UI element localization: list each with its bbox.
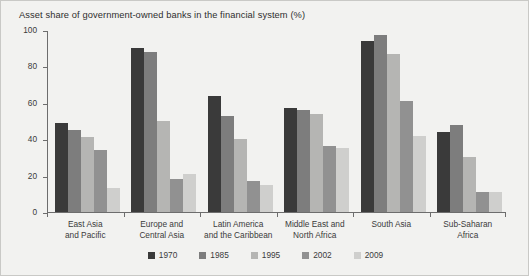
legend-label: 2009 xyxy=(365,250,383,260)
bar xyxy=(400,101,413,212)
chart-figure: Asset share of government-owned banks in… xyxy=(0,0,529,276)
x-axis-category-label: East Asia and Pacific xyxy=(47,219,124,241)
bar xyxy=(107,188,120,212)
x-axis-tick xyxy=(353,213,354,217)
bar xyxy=(374,35,387,212)
bar xyxy=(323,146,336,212)
bar xyxy=(297,110,310,212)
x-axis-category-label: Europe and Central Asia xyxy=(124,219,201,241)
bar xyxy=(157,121,170,212)
bar xyxy=(450,125,463,212)
y-axis-tick: 20 xyxy=(43,177,47,178)
bar xyxy=(144,52,157,212)
x-axis-tick xyxy=(430,213,431,217)
bar-group xyxy=(284,31,349,212)
bar xyxy=(81,137,94,212)
bar xyxy=(234,139,247,212)
x-axis-category-label: Latin America and the Caribbean xyxy=(200,219,277,241)
bar xyxy=(260,185,273,212)
x-axis-tick xyxy=(505,213,506,217)
bar xyxy=(387,54,400,212)
legend-swatch-icon xyxy=(302,252,309,259)
bar-group xyxy=(437,31,502,212)
legend-swatch-icon xyxy=(251,252,258,259)
bar xyxy=(221,116,234,212)
x-axis-tick xyxy=(47,213,48,217)
y-axis-line xyxy=(47,31,48,213)
x-axis-category-label: Middle East and North Africa xyxy=(277,219,354,241)
legend-item[interactable]: 1970 xyxy=(148,250,177,260)
bar xyxy=(208,96,221,212)
bar xyxy=(463,157,476,212)
bar xyxy=(476,192,489,212)
bar-group xyxy=(131,31,196,212)
bar xyxy=(413,136,426,212)
bar xyxy=(55,123,68,212)
y-axis-tick-label: 20 xyxy=(28,171,37,181)
bar xyxy=(247,181,260,212)
x-axis-tick xyxy=(124,213,125,217)
x-axis-category-label: South Asia xyxy=(353,219,430,230)
legend-label: 1995 xyxy=(262,250,280,260)
x-axis-category-label: Sub-Saharan Africa xyxy=(430,219,507,241)
bar xyxy=(489,192,502,212)
y-axis-tick-label: 60 xyxy=(28,98,37,108)
legend-label: 1985 xyxy=(210,250,228,260)
bar xyxy=(131,48,144,212)
legend-item[interactable]: 1985 xyxy=(199,250,228,260)
y-axis-tick: 60 xyxy=(43,104,47,105)
bar-group xyxy=(208,31,273,212)
chart-title: Asset share of government-owned banks in… xyxy=(19,10,305,20)
bar xyxy=(68,130,81,212)
y-axis-tick-label: 0 xyxy=(32,207,37,217)
bar xyxy=(94,150,107,212)
bar-group xyxy=(361,31,426,212)
y-axis-tick-label: 100 xyxy=(23,25,37,35)
x-axis-tick xyxy=(200,213,201,217)
bar-group xyxy=(55,31,120,212)
bar xyxy=(437,132,450,212)
legend-swatch-icon xyxy=(199,252,206,259)
legend-swatch-icon xyxy=(148,252,155,259)
legend-item[interactable]: 1995 xyxy=(251,250,280,260)
legend-item[interactable]: 2002 xyxy=(302,250,331,260)
bar xyxy=(170,179,183,212)
legend-swatch-icon xyxy=(354,252,361,259)
bar xyxy=(336,148,349,212)
legend-item[interactable]: 2009 xyxy=(354,250,383,260)
y-axis-tick: 40 xyxy=(43,140,47,141)
legend-label: 1970 xyxy=(159,250,177,260)
chart-legend: 19701985199520022009 xyxy=(1,250,529,260)
legend-label: 2002 xyxy=(313,250,331,260)
x-axis-tick xyxy=(277,213,278,217)
bar xyxy=(284,108,297,212)
y-axis-tick: 100 xyxy=(43,31,47,32)
y-axis-tick: 80 xyxy=(43,67,47,68)
bar xyxy=(310,114,323,212)
bar xyxy=(183,174,196,212)
bar xyxy=(361,41,374,212)
y-axis-tick-label: 40 xyxy=(28,134,37,144)
y-axis-tick-label: 80 xyxy=(28,61,37,71)
plot-area: 020406080100 xyxy=(47,31,506,213)
